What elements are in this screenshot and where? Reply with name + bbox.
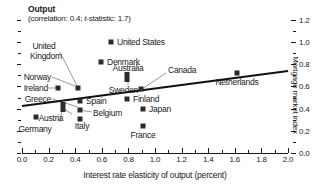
x-axis-line (22, 153, 288, 154)
x-tick-label-6: 1.2 (176, 155, 187, 164)
point-denmark (99, 60, 104, 65)
x-tick-0.8 (128, 148, 129, 153)
x-tick-1.2 (182, 148, 183, 153)
y-tick-left-minor-0.3 (18, 120, 21, 121)
y-tick-0.0 (291, 153, 296, 154)
label-norway: Norway (24, 73, 51, 82)
panel-title: Output (28, 4, 131, 14)
point-netherlands (235, 71, 240, 76)
x-tick-label-9: 1.8 (256, 155, 267, 164)
y-tick-left-0.8 (17, 64, 21, 65)
x-tick-0.6 (102, 148, 103, 153)
y-tick-label-2: 0.4 (299, 104, 310, 113)
point-finland (125, 97, 130, 102)
y-tick-left-1.0 (17, 42, 21, 43)
point-australia (125, 72, 130, 82)
label-kingdom: Kingdom (30, 52, 62, 61)
y-tick-left-0.6 (17, 86, 21, 87)
panel-header: Output (correlation: 0.4; t-statistic: 1… (28, 4, 131, 24)
point-spain (78, 99, 83, 104)
label-ireland: Ireland (24, 84, 48, 93)
y-tick-label-1: 0.2 (299, 126, 310, 135)
label-japan: Japan (149, 105, 171, 114)
x-tick-minor-1.7 (248, 150, 249, 153)
y-tick-1.0 (291, 42, 296, 43)
y-tick-label-6: 1.2 (299, 15, 310, 24)
x-tick-1.8 (261, 148, 262, 153)
x-tick-minor-0.7 (115, 150, 116, 153)
x-tick-minor-0.9 (142, 150, 143, 153)
label-italy: Italy (75, 122, 89, 131)
y-tick-1.2 (291, 20, 296, 21)
label-finland: Finland (133, 95, 159, 104)
y-tick-left-minor-0.1 (18, 142, 21, 143)
y-tick-label-4: 0.8 (299, 60, 310, 69)
x-tick-1.0 (155, 148, 156, 153)
y-tick-left-0.4 (17, 109, 21, 110)
point-japan (141, 107, 146, 112)
x-tick-label-1: 0.2 (43, 155, 54, 164)
x-tick-1.4 (208, 148, 209, 153)
label-united-states: United States (117, 38, 165, 47)
x-tick-label-2: 0.4 (70, 155, 81, 164)
x-axis-title: Interest rate elasticity of output (perc… (22, 170, 288, 180)
x-tick-minor-0.3 (62, 150, 63, 153)
label-spain: Spain (86, 97, 107, 106)
x-tick-0.4 (75, 148, 76, 153)
y-tick-label-5: 1.0 (299, 38, 310, 47)
label-canada: Canada (168, 66, 196, 75)
label-france: France (131, 131, 156, 140)
x-tick-label-5: 1.0 (150, 155, 161, 164)
x-tick-label-3: 0.6 (97, 155, 108, 164)
panel-subtitle: (correlation: 0.4; t-statistic: 1.7) (28, 14, 131, 24)
x-tick-1.6 (235, 148, 236, 153)
x-tick-minor-0.5 (89, 150, 90, 153)
scatter-chart: Output (correlation: 0.4; t-statistic: 1… (0, 0, 336, 190)
label-united: United (32, 42, 55, 51)
subtitle-pre: (correlation: 0.4; (28, 14, 84, 23)
label-netherlands: Netherlands (215, 78, 258, 87)
x-tick-minor-1.3 (195, 150, 196, 153)
label-austria: Austria (39, 114, 64, 123)
x-tick-label-7: 1.4 (203, 155, 214, 164)
label-greece: Greece (25, 95, 51, 104)
label-germany: Germany (18, 125, 51, 134)
x-tick-minor-1.1 (168, 150, 169, 153)
y-tick-left-0.0 (17, 153, 21, 154)
x-tick-2.0 (288, 148, 289, 153)
y-tick-left-minor-0.5 (18, 98, 21, 99)
y-tick-minor-0.9 (293, 53, 296, 54)
y-tick-left-minor-0.9 (18, 53, 21, 54)
label-belgium: Belgium (93, 109, 122, 118)
point-belgium (78, 108, 83, 113)
y-tick-minor-1.1 (293, 31, 296, 32)
x-tick-minor-1.9 (275, 150, 276, 153)
point-ireland (56, 86, 61, 91)
subtitle-post: -statistic: 1.7) (86, 14, 130, 23)
x-tick-label-0: 0.0 (17, 155, 28, 164)
leader-united-kingdom (60, 52, 77, 86)
point-united-states (109, 40, 114, 45)
x-tick-0.2 (49, 148, 50, 153)
y-tick-left-minor-0.7 (18, 75, 21, 76)
x-tick-label-8: 1.6 (230, 155, 241, 164)
y-tick-left-minor-1.1 (18, 31, 21, 32)
x-tick-0.0 (22, 148, 23, 153)
y-tick-left-1.2 (17, 20, 21, 21)
point-united-kingdom (76, 86, 81, 91)
point-france (141, 124, 146, 129)
x-tick-label-10: 2.0 (283, 155, 294, 164)
x-tick-minor-0.1 (35, 150, 36, 153)
y-tick-minor-0.1 (293, 142, 296, 143)
y-tick-label-3: 0.6 (299, 82, 310, 91)
y-axis-title: Mortgage market index (292, 56, 301, 134)
label-australia: Australia (113, 64, 144, 73)
x-tick-label-4: 0.8 (123, 155, 134, 164)
x-tick-minor-1.5 (222, 150, 223, 153)
leader-canada (142, 73, 166, 89)
y-tick-label-0: 0.0 (299, 149, 310, 158)
point-canada-sweden (139, 87, 144, 92)
point-austria-greece (61, 102, 66, 112)
